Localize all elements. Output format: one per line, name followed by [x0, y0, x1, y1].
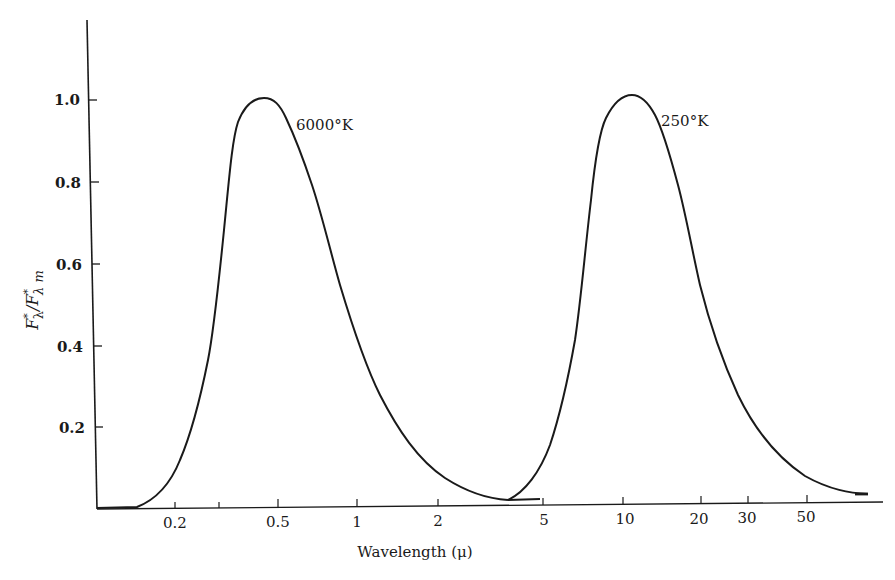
- xtick-label-0.5: 0.5: [266, 513, 290, 531]
- ytick-label-0.4: 0.4: [57, 338, 83, 356]
- xtick-label-50: 50: [796, 508, 815, 526]
- ytick-label-0.8: 0.8: [55, 174, 81, 192]
- xtick-label-0.2: 0.2: [163, 514, 187, 532]
- y-axis-title: F*λ/F*λ m: [21, 270, 46, 331]
- label-250K: 250°K: [661, 112, 709, 130]
- ytick-label-1.0: 1.0: [54, 91, 80, 109]
- baseline-segment-5um: [508, 499, 540, 500]
- svg-text:F*λ/F*λ m: F*λ/F*λ m: [21, 270, 46, 331]
- xtick-label-5: 5: [539, 511, 549, 529]
- xtick-label-30: 30: [737, 509, 756, 527]
- label-6000K: 6000°K: [296, 116, 354, 134]
- x-axis: [97, 502, 883, 509]
- chart-figure: 1.0 0.8 0.6 0.4 0.2 0.2 0.5 1 2 5 10 20 …: [0, 0, 895, 580]
- xtick-label-10: 10: [615, 510, 634, 528]
- curve-6000K: [97, 98, 508, 508]
- curve-250K: [508, 95, 868, 500]
- ytick-label-0.2: 0.2: [59, 419, 85, 437]
- ytick-label-0.6: 0.6: [56, 256, 82, 274]
- xtick-label-20: 20: [689, 510, 708, 528]
- xtick-label-2: 2: [433, 512, 443, 530]
- xtick-label-1: 1: [352, 513, 362, 531]
- y-ticks: [89, 100, 103, 427]
- x-axis-title: Wavelength (μ): [357, 543, 472, 561]
